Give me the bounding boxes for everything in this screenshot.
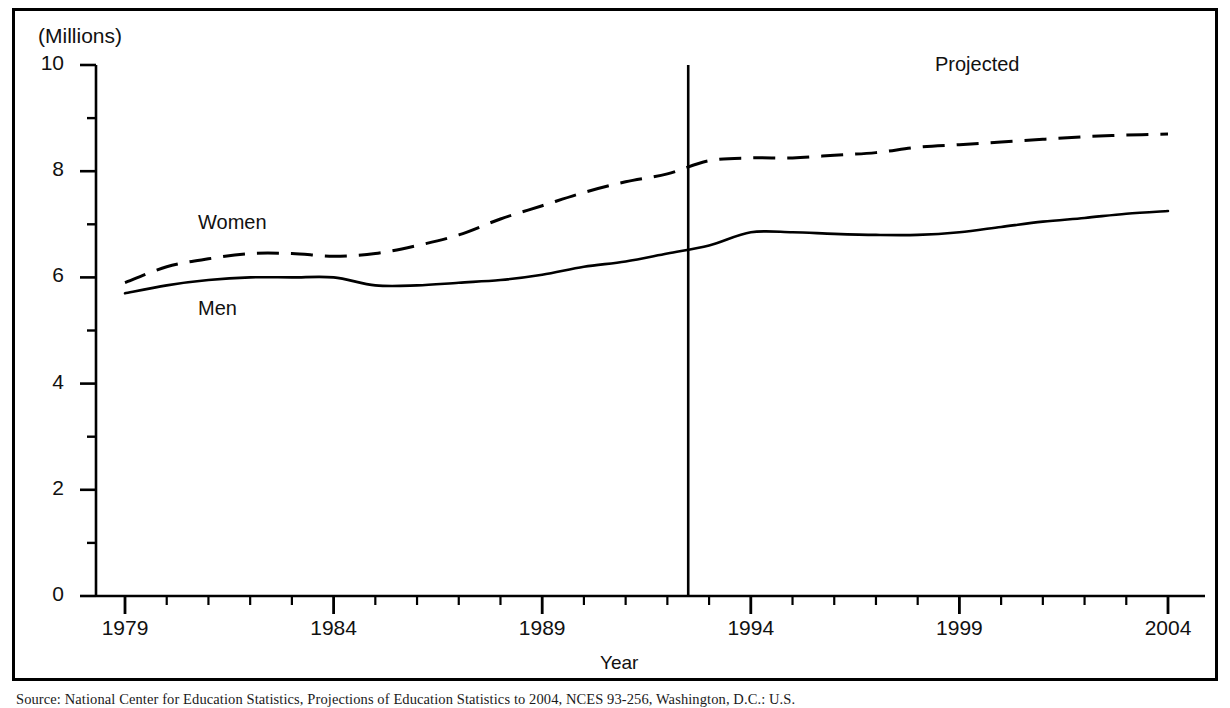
x-axis-tick-label: 1984	[289, 616, 379, 640]
y-axis-tick-label: 2	[24, 476, 64, 500]
series-line-men	[125, 211, 1168, 293]
x-axis-tick-label: 1979	[80, 616, 170, 640]
x-axis-title: Year	[600, 652, 638, 674]
y-axis-ticks	[80, 65, 96, 596]
source-note: Source: National Center for Education St…	[16, 691, 795, 708]
y-axis-tick-label: 4	[24, 370, 64, 394]
x-axis-tick-label: 1999	[914, 616, 1004, 640]
y-axis-tick-label: 8	[24, 157, 64, 181]
x-axis-ticks	[125, 596, 1168, 614]
x-axis-tick-label: 1989	[497, 616, 587, 640]
x-axis-tick-label: 1994	[706, 616, 796, 640]
series-label-women: Women	[198, 211, 267, 234]
projected-annotation: Projected	[935, 53, 1020, 76]
series-line-women	[125, 134, 1168, 283]
x-axis-tick-label: 2004	[1123, 616, 1213, 640]
y-axis-tick-label: 6	[24, 263, 64, 287]
series-label-men: Men	[198, 297, 237, 320]
y-axis-tick-label: 0	[24, 582, 64, 606]
axes-group	[96, 65, 1205, 596]
y-axis-tick-label: 10	[24, 51, 64, 75]
y-axis-units-label: (Millions)	[38, 24, 122, 48]
